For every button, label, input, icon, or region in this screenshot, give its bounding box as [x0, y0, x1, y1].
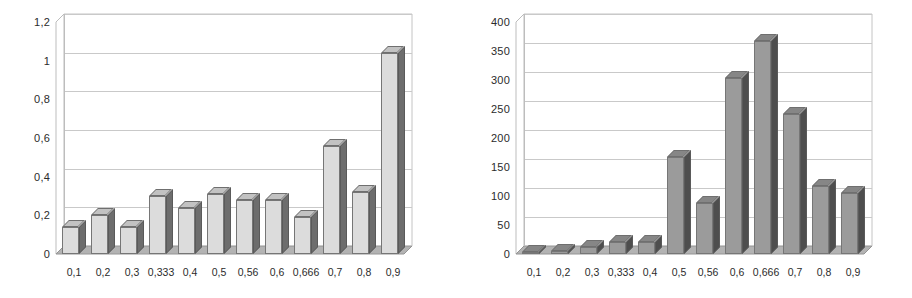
bar-front-face	[381, 53, 397, 254]
x-tick-label: 0,4	[183, 266, 198, 278]
bar-front-face	[580, 247, 596, 254]
chart-panel-left: 00,20,40,60,811,2 0,10,20,30,3330,40,50,…	[0, 0, 456, 298]
bar-front-face	[841, 193, 857, 254]
bar-0-4	[638, 242, 654, 254]
y-tick-label: 300	[491, 74, 510, 86]
bar-front-face	[62, 227, 78, 254]
x-tick-label: 0,6	[730, 266, 745, 278]
bar-side-face	[771, 34, 778, 254]
bar-0-333	[609, 242, 625, 254]
bar-0-1	[62, 227, 78, 254]
x-tick-label: 0,333	[608, 266, 635, 278]
x-tick-label: 0,5	[212, 266, 227, 278]
y-tick-label: 0,6	[34, 132, 50, 144]
bar-front-face	[522, 252, 538, 254]
bar-side-face	[108, 208, 115, 254]
bar-front-face	[120, 227, 136, 254]
bar-0-3	[120, 227, 136, 254]
y-tick-label: 400	[491, 16, 510, 28]
bar-side-face	[858, 186, 865, 254]
bar-0-8	[812, 186, 828, 254]
x-tick-label: 0,3	[585, 266, 600, 278]
bar-side-face	[282, 193, 289, 254]
x-tick-label: 0,8	[817, 266, 832, 278]
y-tick-label: 250	[491, 103, 510, 115]
x-tick-label: 0,666	[293, 266, 320, 278]
bar-side-face	[829, 179, 836, 254]
x-tick-label: 0,3	[125, 266, 140, 278]
y-tick-label: 0	[504, 248, 510, 260]
bar-0-1	[522, 252, 538, 254]
y-tick-label: 200	[491, 132, 510, 144]
bar-side-face	[340, 139, 347, 254]
bar-0-333	[149, 196, 165, 254]
chart-panel-right: 050100150200250300350400 0,10,20,30,3330…	[456, 0, 912, 298]
x-tick-label: 0,2	[556, 266, 571, 278]
y-tick-label: 0	[44, 248, 50, 260]
bar-0-56	[236, 200, 252, 254]
bar-front-face	[783, 114, 799, 254]
bar-side-face	[195, 201, 202, 254]
bar-0-9	[381, 53, 397, 254]
x-tick-label: 0,8	[357, 266, 372, 278]
x-tick-label: 0,5	[672, 266, 687, 278]
bar-side-face	[742, 71, 749, 254]
bar-side-face	[166, 189, 173, 254]
bar-side-face	[224, 187, 231, 254]
plot-area-left	[56, 22, 404, 254]
bar-0-666	[294, 217, 310, 254]
x-tick-label: 0,1	[67, 266, 82, 278]
bar-front-face	[294, 217, 310, 254]
bar-front-face	[178, 208, 194, 254]
bar-front-face	[725, 78, 741, 254]
bar-0-7	[323, 146, 339, 254]
y-tick-label: 1,2	[34, 16, 50, 28]
bar-front-face	[352, 192, 368, 254]
bar-series-right	[516, 22, 864, 254]
bar-front-face	[667, 157, 683, 254]
bar-0-6	[725, 78, 741, 254]
bar-front-face	[754, 41, 770, 254]
y-tick-label: 50	[497, 219, 510, 231]
x-tick-label: 0,56	[238, 266, 259, 278]
figure-two-bar-charts: 00,20,40,60,811,2 0,10,20,30,3330,40,50,…	[0, 0, 912, 298]
bar-front-face	[696, 203, 712, 254]
y-tick-label: 0,8	[34, 93, 50, 105]
bar-0-666	[754, 41, 770, 254]
bar-front-face	[149, 196, 165, 254]
bar-front-face	[91, 215, 107, 254]
x-tick-label: 0,7	[788, 266, 803, 278]
y-tick-label: 350	[491, 45, 510, 57]
x-tick-label: 0,9	[386, 266, 401, 278]
bar-series-left	[56, 22, 404, 254]
x-tick-label: 0,56	[698, 266, 719, 278]
x-tick-label: 0,9	[846, 266, 861, 278]
x-tick-label: 0,6	[270, 266, 285, 278]
bar-side-face	[311, 210, 318, 254]
bar-side-face	[369, 185, 376, 254]
bar-side-face	[800, 107, 807, 254]
bar-front-face	[236, 200, 252, 254]
bar-0-2	[551, 251, 567, 254]
bar-front-face	[323, 146, 339, 254]
bar-front-face	[551, 251, 567, 254]
y-tick-label: 1	[44, 55, 50, 67]
y-tick-label: 0,2	[34, 209, 50, 221]
bar-0-6	[265, 200, 281, 254]
bar-0-5	[207, 194, 223, 254]
bar-0-9	[841, 193, 857, 254]
bar-front-face	[207, 194, 223, 254]
bar-0-3	[580, 247, 596, 254]
bar-0-8	[352, 192, 368, 254]
bar-0-4	[178, 208, 194, 254]
bar-front-face	[812, 186, 828, 254]
x-tick-label: 0,4	[643, 266, 658, 278]
x-tick-label: 0,1	[527, 266, 542, 278]
plot-area-right	[516, 22, 864, 254]
bar-side-face	[253, 193, 260, 254]
y-tick-label: 150	[491, 161, 510, 173]
gridline	[65, 14, 412, 15]
bar-0-2	[91, 215, 107, 254]
gridline	[525, 14, 872, 15]
bar-side-face	[684, 150, 691, 254]
